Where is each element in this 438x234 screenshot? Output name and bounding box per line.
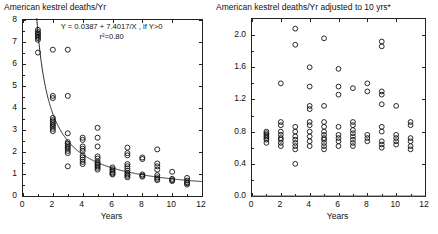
right-data-point (264, 141, 269, 146)
right-data-point (351, 86, 356, 91)
right-data-point (394, 103, 399, 108)
right-data-point (336, 66, 341, 71)
right-data-point (351, 144, 356, 149)
left-ytick-label: 7 (0, 36, 17, 46)
right-data-point (336, 139, 341, 144)
left-fit-equation: Y = 0.0387 + 7.4017/X , if Y>0 (61, 22, 163, 31)
right-data-point (379, 129, 384, 134)
left-ytick-label: 5 (0, 80, 17, 90)
right-data-point (336, 84, 341, 89)
right-data-point (379, 39, 384, 44)
right-data-point (307, 129, 312, 134)
right-xaxis-title: Years (327, 211, 348, 221)
left-xtick-label: 6 (109, 199, 114, 209)
right-data-point (293, 124, 298, 129)
left-ytick-label: 8 (0, 14, 17, 24)
right-xtick (425, 193, 426, 196)
right-data-point (394, 142, 399, 147)
right-data-point (336, 124, 341, 129)
right-data-point (322, 147, 327, 152)
right-xtick-label: 8 (364, 199, 369, 209)
left-xaxis-title: Years (101, 211, 122, 221)
right-chart-title: American kestrel deaths/Yr adjusted to 1… (216, 2, 391, 12)
left-data-layer (23, 20, 202, 196)
right-data-point (307, 65, 312, 70)
left-data-point (170, 169, 175, 174)
right-xtick-label: 2 (277, 199, 282, 209)
left-data-point (65, 93, 70, 98)
left-ytick-right (199, 196, 202, 197)
left-fitted-curve (37, 18, 202, 181)
right-data-point (408, 139, 413, 144)
right-data-point (322, 124, 327, 129)
right-data-point (379, 92, 384, 97)
left-fit-r2: r²=0.80 (61, 32, 163, 42)
right-data-point (293, 42, 298, 47)
left-data-point (125, 145, 130, 150)
left-data-point (95, 125, 100, 130)
left-xtick-label: 2 (49, 199, 54, 209)
right-data-point (379, 124, 384, 129)
left-ytick-label: 1 (0, 168, 17, 178)
left-data-point (65, 164, 70, 169)
left-data-point (65, 131, 70, 136)
left-plot-inner (23, 20, 202, 196)
left-data-point (95, 144, 100, 149)
left-ytick-label: 3 (0, 124, 17, 134)
right-data-point (336, 92, 341, 97)
left-data-point (65, 47, 70, 52)
right-data-point (379, 145, 384, 150)
right-data-point (307, 84, 312, 89)
right-xtick-label: 6 (335, 199, 340, 209)
left-xtick-label: 4 (79, 199, 84, 209)
left-data-point (155, 147, 160, 152)
left-xtick-label: 10 (166, 199, 175, 209)
right-ytick-label: 1.6 (219, 61, 246, 71)
right-data-point (307, 134, 312, 139)
right-data-point (307, 144, 312, 149)
right-data-point (307, 123, 312, 128)
left-xtick-label: 8 (139, 199, 144, 209)
left-ytick-label: 2 (0, 146, 17, 156)
left-plot-area (22, 19, 203, 197)
right-data-point (351, 123, 356, 128)
right-data-point (408, 147, 413, 152)
right-data-point (293, 129, 298, 134)
right-data-point (307, 107, 312, 112)
right-xtick-label: 12 (419, 199, 428, 209)
left-ytick-label: 4 (0, 102, 17, 112)
right-data-point (336, 144, 341, 149)
right-ytick-label: 0.8 (219, 126, 246, 136)
right-ytick-label: 0.0 (219, 190, 246, 200)
right-data-point (365, 89, 370, 94)
right-data-layer (252, 19, 425, 196)
left-data-point (155, 167, 160, 172)
right-data-point (278, 144, 283, 149)
left-xtick (202, 193, 203, 196)
right-data-point (278, 81, 283, 86)
left-ytick-label: 0 (0, 190, 17, 200)
right-xtick-label: 10 (390, 199, 399, 209)
left-xtick-label: 12 (196, 199, 205, 209)
right-data-point (322, 103, 327, 108)
left-fit-annotation: Y = 0.0387 + 7.4017/X , if Y>0 r²=0.80 (61, 22, 163, 42)
right-xtick-label: 4 (306, 199, 311, 209)
right-xtick-top (425, 19, 426, 22)
right-ytick-label: 1.2 (219, 93, 246, 103)
right-data-point (408, 123, 413, 128)
right-data-point (293, 147, 298, 152)
right-ytick-label: 2.0 (219, 29, 246, 39)
right-data-point (307, 139, 312, 144)
right-data-point (365, 81, 370, 86)
left-chart-panel: American kestrel deaths/Yr Y = 0.0387 + … (0, 0, 219, 234)
right-data-point (379, 102, 384, 107)
right-data-point (365, 139, 370, 144)
left-xtick-top (202, 20, 203, 23)
left-chart-title: American kestrel deaths/Yr (4, 2, 106, 12)
left-xtick-label: 0 (20, 199, 25, 209)
left-data-point (95, 135, 100, 140)
right-data-point (278, 123, 283, 128)
right-data-point (293, 26, 298, 31)
right-ytick-label: 0.4 (219, 158, 246, 168)
right-xtick-label: 0 (249, 199, 254, 209)
